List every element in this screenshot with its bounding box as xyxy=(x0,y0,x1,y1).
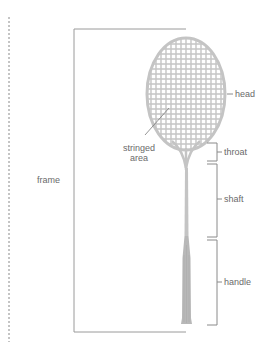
label-stringed-area-line2: area xyxy=(118,153,160,163)
handle-bracket xyxy=(207,240,222,325)
stringed-area xyxy=(140,30,232,160)
label-frame: frame xyxy=(37,175,60,185)
shaft-bracket xyxy=(207,164,222,237)
label-stringed-area: stringed area xyxy=(118,143,160,163)
racquet-shaft xyxy=(185,168,189,236)
label-handle: handle xyxy=(224,277,251,287)
label-shaft: shaft xyxy=(224,194,244,204)
label-throat: throat xyxy=(224,147,247,157)
throat-bracket xyxy=(207,143,222,161)
label-head: head xyxy=(235,89,255,99)
label-stringed-area-line1: stringed xyxy=(118,143,160,153)
